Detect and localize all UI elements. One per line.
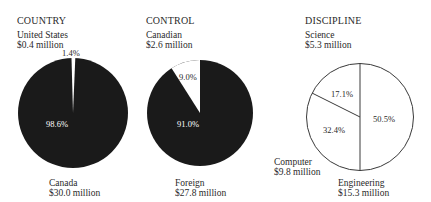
control-canadian-pct: 9.0%	[179, 72, 197, 82]
discipline-science-pct: 17.1%	[331, 89, 353, 99]
discipline-engineering-pct: 50.5%	[373, 114, 395, 124]
country-pie: 1.4% 98.6%	[18, 48, 128, 168]
country-canada-pct: 98.6%	[46, 119, 68, 129]
control-foreign-pct: 91.0%	[177, 119, 199, 129]
control-pie: 9.0% 91.0%	[147, 60, 253, 166]
discipline-pie: 17.1% 32.4% 50.5%	[307, 64, 414, 171]
pie-charts-canvas: 1.4% 98.6% 9.0% 91.0% 17.1% 32.4% 50.5%	[0, 0, 431, 202]
country-us-pct: 1.4%	[62, 48, 80, 58]
discipline-computer-pct: 32.4%	[323, 125, 345, 135]
